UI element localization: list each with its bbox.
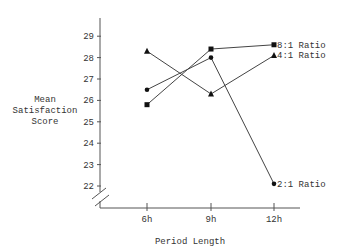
- y-tick-label: 26: [83, 96, 94, 106]
- chart-axes: [92, 18, 300, 211]
- chart-series: [144, 42, 277, 186]
- x-tick-label: 12h: [266, 215, 282, 225]
- x-axis-label: Period Length: [155, 237, 225, 247]
- line-chart: 22232425262728296h9h12hPeriod LengthMean…: [0, 0, 340, 252]
- chart-labels: 22232425262728296h9h12hPeriod LengthMean…: [13, 32, 326, 247]
- series-8-1-ratio: [145, 42, 277, 107]
- y-tick-label: 24: [83, 139, 94, 149]
- x-tick-label: 6h: [142, 215, 153, 225]
- series-2-1-ratio: [145, 55, 277, 186]
- y-tick-label: 22: [83, 182, 94, 192]
- series-label: 2:1 Ratio: [277, 180, 326, 190]
- y-axis-label: Mean: [34, 95, 56, 105]
- y-tick-label: 28: [83, 54, 94, 64]
- y-tick-label: 25: [83, 118, 94, 128]
- y-axis-label: Score: [31, 117, 58, 127]
- series-label: 8:1 Ratio: [277, 41, 326, 51]
- y-tick-label: 27: [83, 75, 94, 85]
- y-tick-label: 29: [83, 32, 94, 42]
- y-tick-label: 23: [83, 161, 94, 171]
- series-label: 4:1 Ratio: [277, 51, 326, 61]
- x-tick-label: 9h: [206, 215, 217, 225]
- y-axis-label: Satisfaction: [13, 106, 78, 116]
- series-4-1-ratio: [144, 48, 277, 97]
